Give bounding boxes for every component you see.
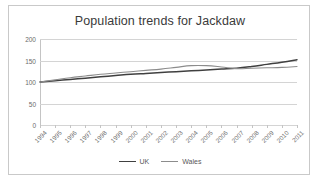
x-axis-tick-label: 2002 bbox=[154, 129, 169, 144]
legend-entry-uk[interactable]: UK bbox=[119, 158, 150, 165]
gridline bbox=[40, 125, 297, 126]
x-axis-tick-label: 2008 bbox=[245, 129, 260, 144]
x-axis-tick-mark bbox=[131, 125, 132, 128]
x-axis-tick-label: 2011 bbox=[290, 129, 305, 144]
x-axis-tick-label: 2004 bbox=[184, 129, 199, 144]
x-axis-tick-mark bbox=[297, 125, 298, 128]
x-axis-tick-mark bbox=[267, 125, 268, 128]
x-axis-tick-label: 2010 bbox=[275, 129, 290, 144]
x-axis-tick-label: 1996 bbox=[63, 129, 78, 144]
x-axis-tick-label: 1997 bbox=[78, 129, 93, 144]
y-axis-tick-label: 100 bbox=[25, 79, 36, 86]
chart-legend: UKWales bbox=[9, 158, 311, 165]
x-axis-tick-label: 2009 bbox=[260, 129, 275, 144]
x-axis-tick-mark bbox=[191, 125, 192, 128]
x-axis-tick-mark bbox=[206, 125, 207, 128]
y-axis-tick-label: 50 bbox=[29, 100, 36, 107]
x-axis-tick-mark bbox=[100, 125, 101, 128]
chart-title: Population trends for Jackdaw bbox=[9, 14, 311, 28]
y-axis-tick-label: 150 bbox=[25, 57, 36, 64]
series-line-uk bbox=[40, 60, 297, 82]
plot-area: 050100150200 199419951996199719981999200… bbox=[40, 39, 297, 125]
y-axis-tick-label: 200 bbox=[25, 36, 36, 43]
x-axis-tick-mark bbox=[116, 125, 117, 128]
x-axis-tick-mark bbox=[176, 125, 177, 128]
legend-swatch-icon bbox=[119, 161, 136, 162]
x-axis-tick-label: 1994 bbox=[33, 129, 48, 144]
legend-label: Wales bbox=[182, 158, 201, 165]
x-axis-tick-label: 2006 bbox=[214, 129, 229, 144]
x-axis-tick-mark bbox=[55, 125, 56, 128]
x-axis-tick-mark bbox=[70, 125, 71, 128]
x-axis-tick-label: 2000 bbox=[124, 129, 139, 144]
y-axis-tick-label: 0 bbox=[32, 122, 36, 129]
x-axis-tick-mark bbox=[85, 125, 86, 128]
series-lines bbox=[40, 39, 297, 125]
x-axis-tick-label: 1998 bbox=[94, 129, 109, 144]
x-axis-tick-label: 2005 bbox=[199, 129, 214, 144]
x-axis-tick-mark bbox=[40, 125, 41, 128]
x-axis-tick-mark bbox=[221, 125, 222, 128]
series-line-wales bbox=[40, 65, 297, 82]
x-axis-tick-label: 2001 bbox=[139, 129, 154, 144]
x-axis-tick-label: 2003 bbox=[169, 129, 184, 144]
x-axis-tick-label: 1995 bbox=[48, 129, 63, 144]
x-axis-tick-mark bbox=[282, 125, 283, 128]
x-axis-tick-mark bbox=[252, 125, 253, 128]
x-axis-tick-label: 2007 bbox=[230, 129, 245, 144]
chart-frame: Population trends for Jackdaw 0501001502… bbox=[8, 5, 310, 175]
x-axis-tick-mark bbox=[161, 125, 162, 128]
x-axis-tick-mark bbox=[146, 125, 147, 128]
legend-swatch-icon bbox=[161, 161, 178, 162]
legend-entry-wales[interactable]: Wales bbox=[161, 158, 201, 165]
x-axis-tick-mark bbox=[237, 125, 238, 128]
legend-label: UK bbox=[140, 158, 150, 165]
x-axis-tick-label: 1999 bbox=[109, 129, 124, 144]
